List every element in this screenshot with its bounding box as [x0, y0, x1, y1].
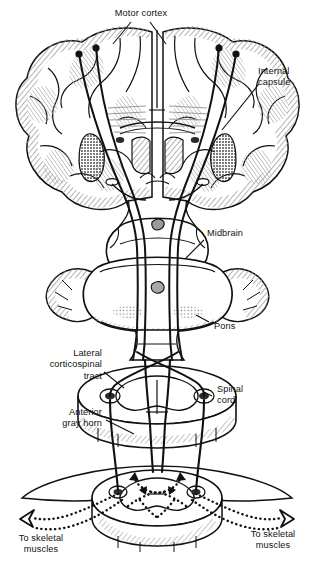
cerebrum	[16, 28, 299, 210]
label-lateral-corticospinal-tract: Lateral corticospinal tract	[20, 348, 102, 382]
corticospinal-pathway-figure: Motor cortex Internal capsule Midbrain P…	[0, 0, 315, 567]
label-spinal-cord: Spinal cord	[217, 384, 267, 407]
internal-capsule-left	[79, 134, 104, 182]
label-midbrain: Midbrain	[207, 228, 263, 239]
label-to-skeletal-muscles-left: To skeletal muscles	[2, 533, 80, 556]
terminal-arrow-left	[20, 510, 34, 527]
label-pons: Pons	[214, 321, 254, 332]
medulla	[130, 330, 184, 360]
label-motor-cortex: Motor cortex	[101, 8, 181, 19]
label-to-skeletal-muscles-right: To skeletal muscles	[234, 529, 312, 552]
terminal-arrow-right	[280, 510, 294, 527]
internal-capsule-right	[211, 134, 236, 182]
label-internal-capsule: Internal capsule	[258, 66, 314, 89]
label-anterior-gray-horn: Anterior gray horn	[24, 407, 102, 430]
